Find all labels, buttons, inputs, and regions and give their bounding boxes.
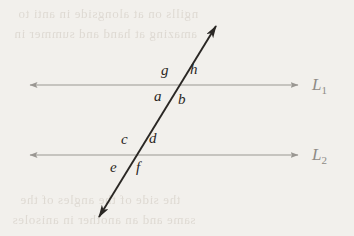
line-label-L2-subscript: 2: [321, 154, 327, 166]
angle-label-d: d: [149, 131, 157, 146]
angle-label-a: a: [154, 89, 162, 104]
angle-label-b: b: [178, 92, 186, 107]
line-label-L2: L2: [312, 146, 327, 166]
angle-label-e: e: [110, 160, 117, 175]
figure-canvas: [0, 0, 354, 236]
geometry-figure: ngills on at alongside in anti to amazin…: [0, 0, 354, 236]
transversal-line: [99, 26, 216, 217]
line-label-L1: L1: [312, 76, 327, 96]
line-label-L1-subscript: 1: [321, 84, 327, 96]
angle-label-g: g: [161, 63, 169, 78]
angle-label-h: h: [190, 62, 198, 77]
angle-label-f: f: [136, 160, 140, 175]
angle-label-c: c: [121, 132, 128, 147]
